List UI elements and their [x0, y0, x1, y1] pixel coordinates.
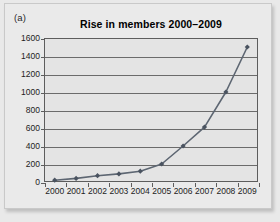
plot-wrapper: [44, 38, 258, 182]
series-line: [55, 47, 248, 180]
x-tick-label: 2006: [174, 186, 193, 196]
y-tick-label: 800: [26, 105, 40, 115]
y-tick-label: 1000: [21, 87, 40, 97]
x-tick-label: 2002: [88, 186, 107, 196]
y-tick-label: 1600: [21, 33, 40, 43]
y-tick-label: 600: [26, 123, 40, 133]
y-axis: 02004006008001000120014001600: [8, 38, 40, 182]
line-series: [44, 38, 258, 182]
x-tick-mark: [259, 183, 260, 187]
x-tick-label: 2001: [67, 186, 86, 196]
x-tick-label: 2005: [152, 186, 171, 196]
chart-title: Rise in members 2000–2009: [44, 18, 258, 30]
x-tick-label: 2008: [216, 186, 235, 196]
panel-label: (a): [14, 12, 26, 23]
x-tick-label: 2009: [238, 186, 257, 196]
x-tick-label: 2003: [109, 186, 128, 196]
x-tick-label: 2000: [45, 186, 64, 196]
y-tick-label: 1200: [21, 69, 40, 79]
data-point-marker: [74, 176, 79, 181]
data-point-marker: [245, 44, 250, 49]
data-point-marker: [116, 171, 121, 176]
y-tick-label: 1400: [21, 51, 40, 61]
x-tick-label: 2007: [195, 186, 214, 196]
x-axis: 2000200120022003200420052006200720082009: [44, 184, 258, 200]
data-point-marker: [138, 169, 143, 174]
y-tick-label: 0: [35, 177, 40, 187]
x-tick-label: 2004: [131, 186, 150, 196]
y-tick-label: 200: [26, 159, 40, 169]
data-point-marker: [95, 173, 100, 178]
figure-page: (a) Rise in members 2000–2009 0200400600…: [0, 0, 280, 222]
y-tick-label: 400: [26, 141, 40, 151]
